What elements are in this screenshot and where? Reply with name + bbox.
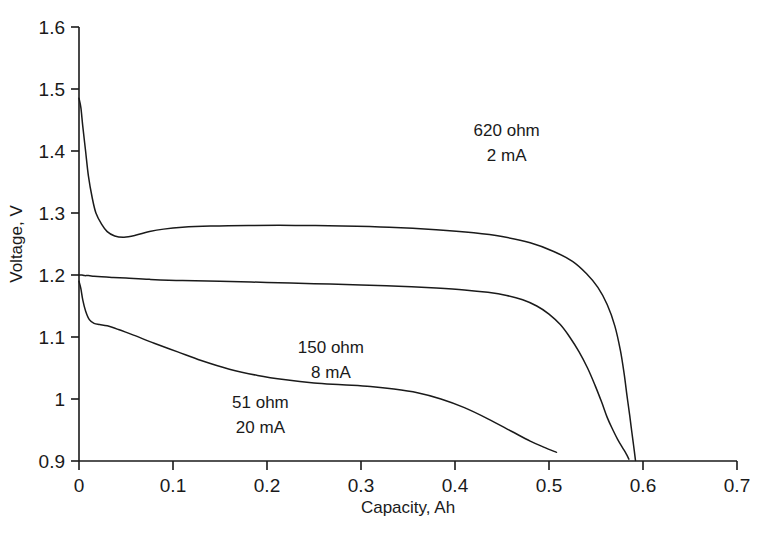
curve-series-1 [79, 275, 629, 459]
x-tick-label-0.5: 0.5 [536, 475, 562, 496]
y-tick-label-1.6: 1.6 [39, 17, 65, 38]
y-tick-label-1.5: 1.5 [39, 79, 65, 100]
annotation-current-2: 20 mA [236, 418, 286, 437]
y-tick-label-0.9: 0.9 [39, 451, 65, 472]
annotation-current-1: 8 mA [311, 363, 351, 382]
y-tick-label-1.4: 1.4 [39, 141, 66, 162]
y-tick-label-1.1: 1.1 [39, 327, 65, 348]
annotation-series-0: 620 ohm2 mA [474, 121, 540, 165]
axis-lines [79, 27, 737, 461]
chart-figure: 0.911.11.21.31.41.51.6 00.10.20.30.40.50… [0, 0, 758, 534]
x-tick-label-0.1: 0.1 [160, 475, 186, 496]
x-tick-label-0.6: 0.6 [630, 475, 656, 496]
y-tick-label-1: 1 [54, 389, 65, 410]
x-tick-label-0.4: 0.4 [442, 475, 469, 496]
x-tick-label-0.2: 0.2 [254, 475, 280, 496]
annotation-resistance-0: 620 ohm [474, 121, 540, 140]
annotation-resistance-2: 51 ohm [232, 393, 289, 412]
series-annotations: 620 ohm2 mA150 ohm8 mA51 ohm20 mA [232, 121, 540, 438]
x-tick-label-0.7: 0.7 [724, 475, 750, 496]
x-tick-label-0: 0 [74, 475, 85, 496]
x-axis-ticks [79, 461, 737, 470]
discharge-curve-plot: 0.911.11.21.31.41.51.6 00.10.20.30.40.50… [0, 0, 758, 534]
y-axis-tick-labels: 0.911.11.21.31.41.51.6 [39, 17, 66, 472]
annotation-resistance-1: 150 ohm [298, 338, 364, 357]
y-tick-label-1.3: 1.3 [39, 203, 65, 224]
y-tick-label-1.2: 1.2 [39, 265, 65, 286]
annotation-series-2: 51 ohm20 mA [232, 393, 289, 437]
annotation-current-0: 2 mA [487, 146, 527, 165]
x-tick-label-0.3: 0.3 [348, 475, 374, 496]
x-axis-title: Capacity, Ah [361, 498, 455, 517]
y-axis-ticks [71, 27, 79, 461]
annotation-series-1: 150 ohm8 mA [298, 338, 364, 382]
x-axis-tick-labels: 00.10.20.30.40.50.60.7 [74, 475, 751, 496]
y-axis-title: Voltage, V [7, 205, 26, 283]
data-curves [79, 98, 635, 460]
